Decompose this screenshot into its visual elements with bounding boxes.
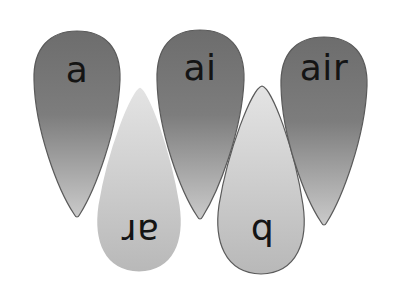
petal-label-a: a bbox=[57, 52, 97, 88]
petals-graphic bbox=[0, 0, 395, 298]
petal-label-air: air bbox=[289, 50, 359, 86]
phonics-flower: a ar ai b air bbox=[0, 0, 395, 298]
petal-label-ar: ar bbox=[112, 214, 168, 250]
petal-label-ai: ai bbox=[172, 50, 228, 86]
petal-label-b: b bbox=[244, 214, 280, 250]
